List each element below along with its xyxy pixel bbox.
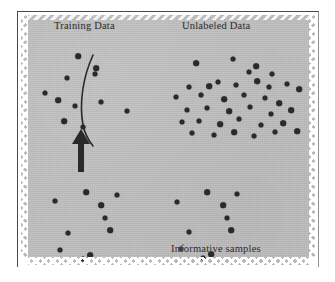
- up-arrow-icon: [21, 15, 316, 265]
- diagram-panel: Training Data Unlabeled Data Informative…: [21, 15, 316, 265]
- label-informative-samples: Informative samples: [171, 243, 261, 254]
- label-unlabeled-data: Unlabeled Data: [182, 20, 250, 31]
- figure-root: Training Data Unlabeled Data Informative…: [0, 0, 335, 282]
- label-training-data: Training Data: [54, 20, 115, 31]
